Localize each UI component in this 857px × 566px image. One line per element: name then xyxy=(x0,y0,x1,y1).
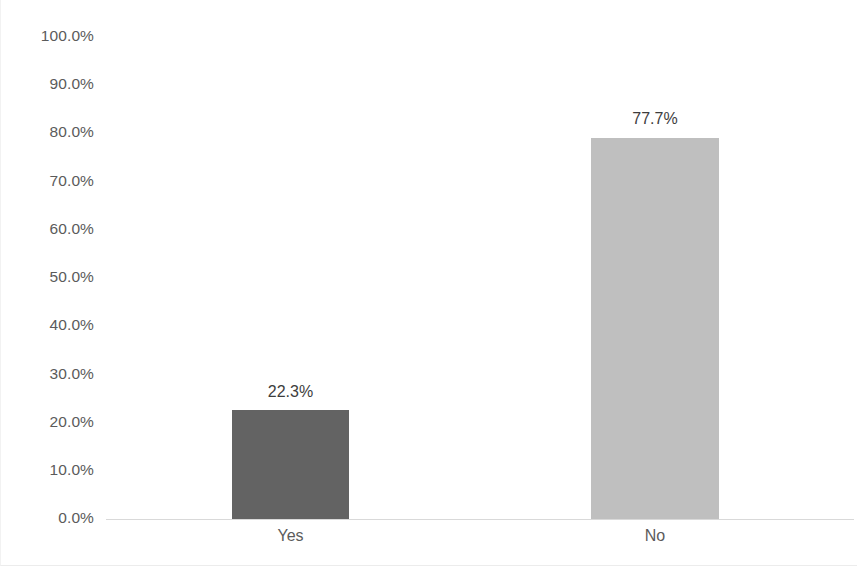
x-axis-baseline xyxy=(106,519,854,520)
y-axis: 100.0% 90.0% 80.0% 70.0% 60.0% 50.0% 40.… xyxy=(1,0,97,566)
y-axis-tick-label: 0.0% xyxy=(2,510,94,526)
y-axis-tick-label: 60.0% xyxy=(2,221,94,237)
y-axis-tick-label: 100.0% xyxy=(2,28,94,44)
bar-value-label-yes: 22.3% xyxy=(232,384,349,400)
y-axis-tick-label: 80.0% xyxy=(2,124,94,140)
y-axis-tick-label: 40.0% xyxy=(2,317,94,333)
plot-area xyxy=(106,28,854,519)
y-axis-tick-label: 90.0% xyxy=(2,76,94,92)
y-axis-tick-label: 30.0% xyxy=(2,366,94,382)
bar-chart: 100.0% 90.0% 80.0% 70.0% 60.0% 50.0% 40.… xyxy=(0,0,857,566)
y-axis-tick-label: 50.0% xyxy=(2,269,94,285)
y-axis-tick-label: 20.0% xyxy=(2,414,94,430)
y-axis-tick-label: 10.0% xyxy=(2,462,94,478)
y-axis-tick-label: 70.0% xyxy=(2,173,94,189)
x-axis-category-label-no: No xyxy=(591,528,719,544)
bar-yes xyxy=(232,410,349,519)
bar-value-label-no: 77.7% xyxy=(591,111,719,127)
bar-no xyxy=(591,138,719,520)
x-axis-category-label-yes: Yes xyxy=(232,528,349,544)
